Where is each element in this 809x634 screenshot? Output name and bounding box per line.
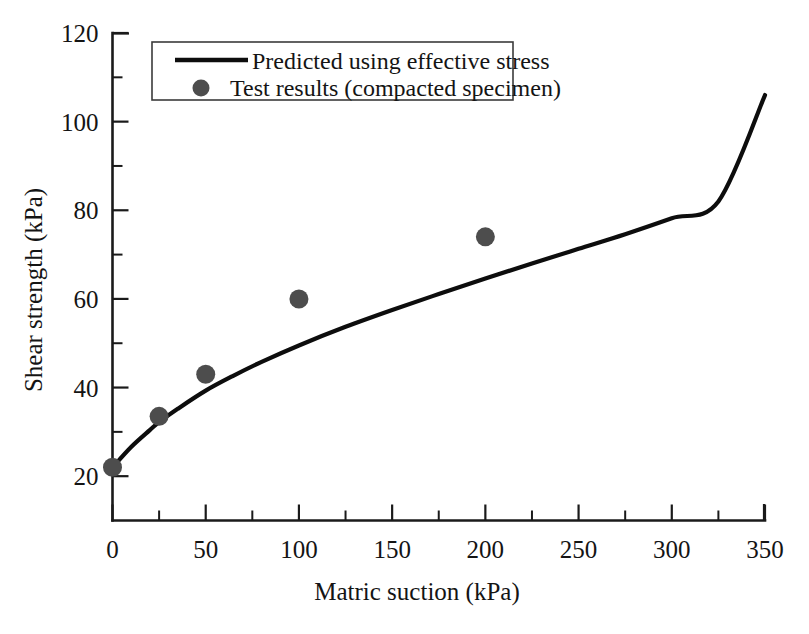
x-tick-label: 350 bbox=[746, 536, 784, 563]
series-markers-group bbox=[103, 227, 495, 476]
x-tick-label: 0 bbox=[106, 536, 119, 563]
y-tick-label: 120 bbox=[61, 20, 99, 47]
series-line-group bbox=[113, 95, 766, 467]
y-ticks-group bbox=[113, 33, 129, 476]
x-tick-label: 100 bbox=[280, 536, 318, 563]
series-line-predicted bbox=[113, 95, 766, 467]
axes-group bbox=[113, 33, 766, 521]
series-marker-test-result bbox=[196, 365, 215, 384]
x-tick-label: 300 bbox=[653, 536, 691, 563]
chart-canvas: 20406080100120 050100150200250300350 Mat… bbox=[0, 0, 809, 634]
x-tick-labels-group: 050100150200250300350 bbox=[106, 536, 784, 563]
legend: Predicted using effective stress Test re… bbox=[152, 42, 561, 101]
x-tick-label: 50 bbox=[193, 536, 218, 563]
x-axis-title: Matric suction (kPa) bbox=[314, 578, 520, 606]
y-tick-labels-group: 20406080100120 bbox=[61, 20, 99, 490]
x-tick-label: 200 bbox=[467, 536, 505, 563]
legend-label-test-results: Test results (compacted specimen) bbox=[230, 75, 561, 101]
y-tick-label: 100 bbox=[61, 109, 99, 136]
y-tick-label: 40 bbox=[74, 375, 99, 402]
x-ticks-group bbox=[113, 505, 766, 521]
series-marker-test-result bbox=[150, 407, 169, 426]
legend-dot-swatch bbox=[193, 80, 210, 97]
y-tick-label: 60 bbox=[74, 286, 99, 313]
series-marker-test-result bbox=[476, 227, 495, 246]
chart-figure: 20406080100120 050100150200250300350 Mat… bbox=[0, 0, 809, 634]
x-tick-label: 250 bbox=[560, 536, 598, 563]
series-marker-test-result bbox=[289, 289, 308, 308]
axis-end-caps bbox=[113, 34, 765, 521]
y-tick-label: 80 bbox=[74, 197, 99, 224]
y-tick-label: 20 bbox=[74, 463, 99, 490]
series-marker-test-result bbox=[103, 458, 122, 477]
x-tick-label: 150 bbox=[373, 536, 411, 563]
y-axis-title: Shear strength (kPa) bbox=[20, 188, 48, 392]
legend-label-predicted: Predicted using effective stress bbox=[252, 48, 549, 74]
